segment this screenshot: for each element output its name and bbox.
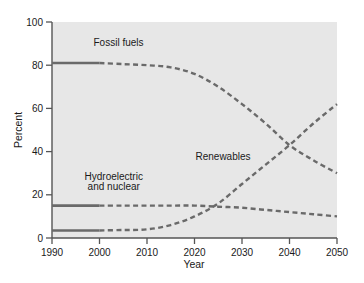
series-annotation-fossil-fuels: Fossil fuels [93,37,143,48]
x-tick-label: 2010 [136,247,159,258]
x-tick-label: 2040 [278,247,301,258]
x-tick-label: 1990 [41,247,64,258]
y-tick-label: 100 [26,17,43,28]
x-axis-tick-labels: 1990200020102020203020402050 [41,247,349,258]
x-tick-label: 2030 [231,247,254,258]
y-tick-label: 80 [32,60,44,71]
x-axis-ticks [52,238,337,244]
x-tick-label: 2050 [326,247,349,258]
series-annotation-hydroelectric: Hydroelectric [85,171,143,182]
y-axis-ticks [46,22,52,238]
y-axis-title: Percent [12,112,24,148]
y-tick-label: 20 [32,189,44,200]
chart-canvas: 020406080100 199020002010202020302040205… [0,0,364,283]
y-axis-tick-labels: 020406080100 [26,17,43,244]
energy-mix-chart: 020406080100 199020002010202020302040205… [0,0,364,283]
y-tick-label: 60 [32,103,44,114]
series-annotation-and-nuclear: and nuclear [88,181,141,192]
x-axis-title: Year [183,258,205,270]
x-tick-label: 2000 [88,247,111,258]
series-annotation-renewables: Renewables [195,151,250,162]
x-tick-label: 2020 [183,247,206,258]
y-tick-label: 40 [32,146,44,157]
y-tick-label: 0 [37,233,43,244]
